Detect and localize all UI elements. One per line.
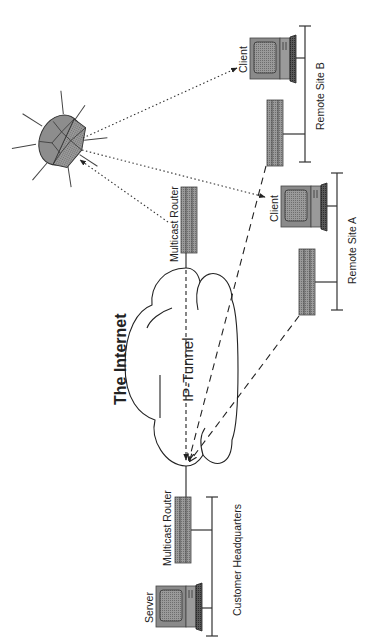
server-computer: [156, 583, 202, 631]
internet-router-label: Multicast Router: [168, 186, 180, 262]
hq-router-label: Multicast Router: [161, 490, 173, 566]
satellite-link-remote-b: [83, 68, 237, 138]
remote-a-client-label: Client: [268, 195, 280, 222]
network-diagram: The Internet Multicast Router IP-Tunnel …: [0, 0, 371, 639]
ip-tunnel-label: IP-Tunnel: [179, 338, 196, 402]
hq-site-label: Customer Headquarters: [231, 504, 243, 616]
remote-a-client-computer: [281, 183, 327, 231]
remote-a-site-label: Remote Site A: [346, 217, 358, 284]
server-label: Server: [143, 592, 155, 623]
remote-b-site-label: Remote Site B: [314, 62, 326, 130]
remote-a-router: [299, 249, 315, 315]
internet-multicast-router: [181, 187, 197, 268]
internet-label: The Internet: [112, 313, 129, 405]
hq-multicast-router: [175, 497, 191, 563]
remote-b-tunnel-line: [189, 166, 266, 460]
remote-b-router: [267, 100, 283, 166]
satellite-icon: [0, 80, 120, 202]
remote-a-tunnel-line: [190, 316, 299, 461]
satellite-link-internet-router: [80, 160, 168, 222]
remote-b-client-computer: [250, 35, 296, 83]
remote-b-client-label: Client: [237, 46, 249, 73]
